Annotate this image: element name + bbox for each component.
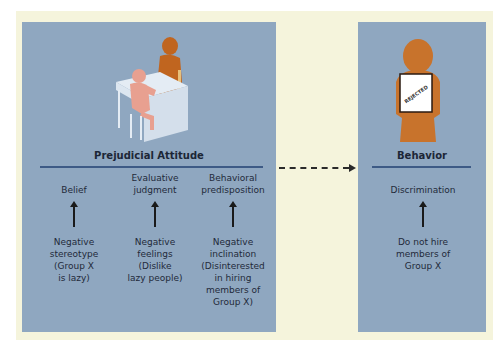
interview-scene-illustration (108, 34, 198, 144)
desk-icon (116, 72, 188, 142)
evaluative-judgment-column: Evaluative judgment Negative feelings (D… (110, 172, 200, 284)
belief-heading: Belief (29, 172, 119, 196)
up-arrow-icon (154, 205, 156, 227)
up-arrow-icon (232, 205, 234, 227)
connector-arrowhead-icon (349, 164, 356, 172)
evaluative-judgment-heading: Evaluative judgment (110, 172, 200, 196)
discrimination-detail: Do not hire members of Group X (378, 236, 468, 272)
belief-column: Belief Negative stereotype (Group X is l… (29, 172, 119, 284)
up-arrow-icon (422, 205, 424, 227)
evaluative-judgment-detail: Negative feelings (Dislike lazy people) (110, 236, 200, 284)
rejected-sign-icon: REJECTED (400, 74, 432, 112)
behavioral-predisposition-detail: Negative inclination (Disinterested in h… (188, 236, 278, 308)
dashed-connector-line (279, 167, 349, 169)
belief-detail: Negative stereotype (Group X is lazy) (29, 236, 119, 284)
discrimination-column: Discrimination Do not hire members of Gr… (378, 172, 468, 272)
rejected-person-illustration: REJECTED (390, 38, 446, 142)
up-arrow-icon (73, 205, 75, 227)
behavioral-predisposition-column: Behavioral predisposition Negative incli… (188, 172, 278, 308)
attitude-divider (40, 166, 263, 168)
discrimination-heading: Discrimination (378, 172, 468, 196)
behavior-divider (372, 166, 471, 168)
attitude-title: Prejudicial Attitude (22, 150, 276, 161)
behavior-title: Behavior (358, 150, 486, 161)
behavioral-predisposition-heading: Behavioral predisposition (188, 172, 278, 196)
